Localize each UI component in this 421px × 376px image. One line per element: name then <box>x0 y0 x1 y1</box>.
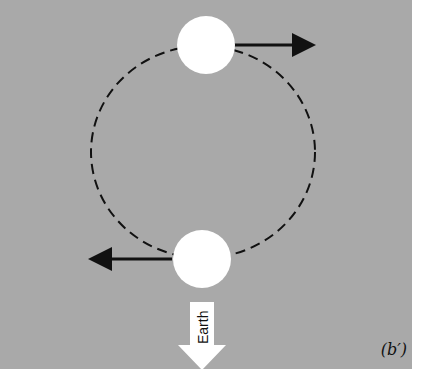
orbit-diagram: Earth <box>0 0 421 376</box>
earth-label: Earth <box>195 311 211 344</box>
moon-bottom <box>173 230 231 288</box>
figure-label: (b′) <box>381 340 407 359</box>
moon-top <box>177 16 235 74</box>
orbit-path <box>91 46 315 258</box>
